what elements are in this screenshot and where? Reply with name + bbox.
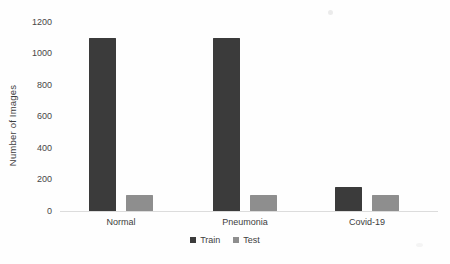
x-category-label-covid-19: Covid-19 bbox=[322, 217, 412, 227]
x-category-label-pneumonia: Pneumonia bbox=[200, 217, 290, 227]
y-axis-title: Number of Images bbox=[7, 56, 18, 196]
x-category-label-normal: Normal bbox=[76, 217, 166, 227]
legend-swatch-icon bbox=[190, 237, 196, 243]
y-tick-label: 1200 bbox=[18, 17, 52, 28]
bar-test-pneumonia bbox=[250, 195, 277, 211]
y-tick-label: 0 bbox=[18, 206, 52, 217]
legend-label: Test bbox=[243, 235, 260, 245]
bar-train-normal bbox=[89, 38, 116, 211]
legend-item-train: Train bbox=[190, 235, 220, 245]
bar-chart: Number of Images 020040060080010001200 N… bbox=[0, 0, 450, 264]
legend-label: Train bbox=[200, 235, 220, 245]
x-axis-baseline bbox=[60, 211, 438, 212]
legend-item-test: Test bbox=[233, 235, 260, 245]
y-tick-label: 1000 bbox=[18, 48, 52, 59]
y-tick-label: 200 bbox=[18, 174, 52, 185]
bar-test-covid-19 bbox=[372, 195, 399, 211]
y-tick-label: 600 bbox=[18, 111, 52, 122]
scan-artifact-dot bbox=[328, 10, 333, 15]
bar-train-pneumonia bbox=[213, 38, 240, 211]
legend-swatch-icon bbox=[233, 237, 239, 243]
legend: TrainTest bbox=[0, 235, 450, 245]
y-tick-label: 400 bbox=[18, 143, 52, 154]
bar-test-normal bbox=[126, 195, 153, 211]
scan-artifact-smudge bbox=[416, 243, 423, 247]
bar-train-covid-19 bbox=[335, 187, 362, 211]
y-tick-label: 800 bbox=[18, 80, 52, 91]
